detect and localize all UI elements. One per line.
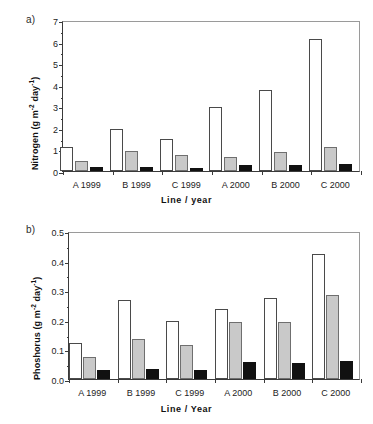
bar-white-a-2000 bbox=[209, 107, 222, 171]
y-axis-minor-tick bbox=[61, 141, 63, 142]
bar-white-a-2000 bbox=[215, 309, 228, 379]
y-axis-minor-tick bbox=[67, 337, 69, 338]
x-axis-tick bbox=[361, 379, 362, 383]
x-axis-tick bbox=[166, 379, 167, 383]
y-axis-tick bbox=[59, 130, 63, 131]
chart-panel-a: a) Nitrogen (g m-2 day-1) 01234567 Line … bbox=[0, 0, 373, 212]
y-axis-tick-label: 0.2 bbox=[51, 317, 64, 327]
y-axis-minor-tick bbox=[67, 307, 69, 308]
x-axis-tick bbox=[118, 379, 119, 383]
y-axis-tick bbox=[59, 22, 63, 23]
y-axis-tick-label: 0.4 bbox=[51, 258, 64, 268]
x-axis-tick bbox=[312, 379, 313, 383]
y-axis-minor-tick bbox=[67, 277, 69, 278]
bar-black-c-1999 bbox=[194, 370, 207, 379]
y-axis-tick-label: 7 bbox=[53, 17, 58, 27]
chart-panel-b: b) Phoshorus (g m-2 day-1) 0.00.10.20.30… bbox=[0, 212, 373, 424]
bar-grey-a-2000 bbox=[229, 322, 242, 379]
y-axis-tick-label: 1 bbox=[53, 146, 58, 156]
x-axis-category-label: B 2000 bbox=[273, 388, 302, 398]
panel-b-y-axis-title: Phoshorus (g m-2 day-1) bbox=[30, 277, 42, 380]
bar-white-b-2000 bbox=[259, 90, 272, 171]
x-axis-tick bbox=[262, 171, 263, 175]
y-axis-tick bbox=[59, 108, 63, 109]
panel-a-plot-area: 01234567 bbox=[62, 21, 360, 172]
y-axis-tick-label: 0.0 bbox=[51, 376, 64, 386]
y-axis-minor-tick bbox=[67, 248, 69, 249]
y-axis-minor-tick bbox=[61, 76, 63, 77]
x-axis-category-label: A 1999 bbox=[73, 180, 101, 190]
bar-black-b-2000 bbox=[289, 165, 302, 171]
bar-grey-a-1999 bbox=[75, 161, 88, 171]
x-axis-tick bbox=[212, 171, 213, 175]
x-axis-tick bbox=[63, 171, 64, 175]
y-axis-tick-label: 4 bbox=[53, 82, 58, 92]
panel-b-label: b) bbox=[26, 224, 35, 235]
bar-grey-b-1999 bbox=[125, 151, 138, 171]
x-axis-category-label: C 1999 bbox=[175, 388, 204, 398]
x-axis-category-label: A 2000 bbox=[224, 388, 252, 398]
y-axis-superscript: -1 bbox=[30, 280, 37, 286]
y-axis-minor-tick bbox=[61, 119, 63, 120]
bar-black-a-1999 bbox=[97, 370, 110, 379]
y-axis-minor-tick bbox=[61, 33, 63, 34]
x-axis-category-label: C 2000 bbox=[321, 180, 350, 190]
y-axis-tick-label: 5 bbox=[53, 60, 58, 70]
x-axis-tick bbox=[311, 171, 312, 175]
bar-black-b-2000 bbox=[292, 363, 305, 379]
bar-white-b-1999 bbox=[110, 129, 123, 171]
y-axis-tick-label: 2 bbox=[53, 125, 58, 135]
y-axis-tick bbox=[59, 87, 63, 88]
y-axis-tick-label: 0.5 bbox=[51, 228, 64, 238]
x-axis-tick bbox=[69, 379, 70, 383]
bar-white-a-1999 bbox=[69, 343, 82, 379]
bar-grey-c-2000 bbox=[326, 295, 339, 379]
x-axis-tick bbox=[162, 171, 163, 175]
x-axis-category-label: C 2000 bbox=[321, 388, 350, 398]
bar-grey-c-2000 bbox=[324, 147, 337, 171]
bar-black-c-2000 bbox=[339, 164, 352, 171]
bar-grey-c-1999 bbox=[175, 155, 188, 171]
y-axis-superscript: -2 bbox=[30, 304, 37, 310]
y-axis-tick bbox=[59, 44, 63, 45]
y-axis-tick bbox=[59, 65, 63, 66]
bar-white-c-2000 bbox=[312, 254, 325, 380]
y-axis-tick-label: 0.3 bbox=[51, 287, 64, 297]
bar-grey-a-1999 bbox=[83, 357, 96, 379]
bar-black-c-1999 bbox=[190, 168, 203, 171]
y-axis-tick bbox=[65, 263, 69, 264]
x-axis-category-label: C 1999 bbox=[172, 180, 201, 190]
figure: a) Nitrogen (g m-2 day-1) 01234567 Line … bbox=[0, 0, 373, 424]
x-axis-tick bbox=[264, 379, 265, 383]
y-axis-superscript: -2 bbox=[28, 104, 35, 110]
panel-a-label: a) bbox=[26, 14, 35, 25]
bar-black-a-2000 bbox=[243, 362, 256, 379]
bar-black-b-1999 bbox=[146, 369, 159, 379]
x-axis-category-label: B 1999 bbox=[127, 388, 156, 398]
bar-grey-b-2000 bbox=[274, 152, 287, 171]
y-axis-tick-label: 0.1 bbox=[51, 346, 64, 356]
y-axis-tick-label: 0 bbox=[53, 168, 58, 178]
panel-b-plot-area: 0.00.10.20.30.40.5 bbox=[68, 232, 360, 380]
x-axis-category-label: A 2000 bbox=[222, 180, 250, 190]
bar-black-b-1999 bbox=[140, 167, 153, 171]
x-axis-category-label: B 1999 bbox=[122, 180, 151, 190]
y-axis-tick bbox=[65, 233, 69, 234]
bar-white-a-1999 bbox=[60, 147, 73, 171]
bar-black-c-2000 bbox=[340, 361, 353, 379]
bar-grey-b-1999 bbox=[132, 339, 145, 379]
y-axis-tick bbox=[65, 322, 69, 323]
bar-white-c-2000 bbox=[309, 39, 322, 171]
bar-grey-b-2000 bbox=[278, 322, 291, 379]
x-axis-tick bbox=[361, 171, 362, 175]
bar-black-a-2000 bbox=[239, 165, 252, 171]
bar-white-b-2000 bbox=[264, 298, 277, 379]
x-axis-tick bbox=[113, 171, 114, 175]
y-axis-tick-label: 3 bbox=[53, 103, 58, 113]
bar-grey-c-1999 bbox=[180, 345, 193, 379]
bar-white-c-1999 bbox=[166, 321, 179, 379]
bar-white-b-1999 bbox=[118, 300, 131, 379]
y-axis-tick bbox=[65, 292, 69, 293]
x-axis-category-label: B 2000 bbox=[271, 180, 300, 190]
y-axis-tick-label: 6 bbox=[53, 39, 58, 49]
